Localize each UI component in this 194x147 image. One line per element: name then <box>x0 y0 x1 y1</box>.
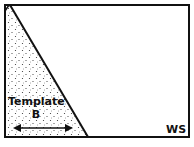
template-label: Template B <box>8 95 64 121</box>
diagram-canvas <box>0 0 194 147</box>
template-label-letter: B <box>8 108 64 121</box>
workspace-label: WS <box>166 123 186 136</box>
template-label-name: Template <box>8 95 64 108</box>
